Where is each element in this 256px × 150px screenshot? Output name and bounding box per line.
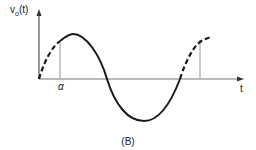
x-axis-label: t bbox=[240, 84, 243, 94]
alpha-label: α bbox=[58, 82, 64, 92]
figure-caption: (B) bbox=[0, 137, 256, 147]
waveform-diagram bbox=[0, 0, 256, 150]
dashed-end-segment bbox=[180, 37, 211, 79]
dashed-start-segment bbox=[39, 41, 60, 79]
solid-waveform bbox=[60, 34, 180, 121]
y-axis-label-arg: (t) bbox=[19, 4, 28, 15]
y-axis-arrow-icon bbox=[37, 9, 42, 16]
x-axis-arrow-icon bbox=[237, 77, 244, 82]
y-axis-label: vo(t) bbox=[10, 5, 28, 17]
